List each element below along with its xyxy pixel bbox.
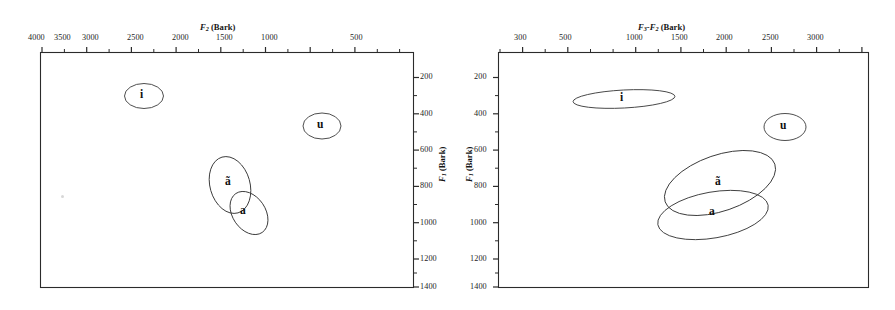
right-ytick-label-1000: 1000 [470,218,487,227]
right-xtick-label-300: 300 [514,33,527,42]
right-plot-canvas [448,0,895,310]
left-xtick-label-4000: 4000 [28,33,45,42]
right-yaxis-symbol: F [464,176,474,182]
right-ytick-label-1400: 1400 [470,282,487,291]
vowel-label-u-left: u [317,118,323,130]
left-yaxis-symbol: F [437,176,447,182]
left-ytick-label-600: 600 [420,145,433,154]
right-yaxis-ticks [493,78,499,288]
right-ytick-label-200: 200 [474,72,487,81]
left-yaxis-unit: (Bark) [437,147,447,171]
right-xtick-label-2500: 2500 [762,33,779,42]
left-xtick-label-1500: 1500 [216,33,233,42]
vowel-label-a-left: a [240,204,246,216]
ellipse-i [573,87,676,110]
right-xtick-label-2000: 2000 [716,33,733,42]
right-ytick-label-1200: 1200 [470,254,487,263]
left-ytick-label-1400: 1400 [420,282,437,291]
left-ytick-label-800: 800 [420,181,433,190]
vowel-label-u-right: u [780,119,786,131]
right-xtick-label-1500: 1500 [671,33,688,42]
left-xtick-label-2000: 2000 [172,33,189,42]
vowel-label-a-right: a [709,205,715,217]
left-xtick-label-1000: 1000 [261,33,278,42]
left-ytick-label-1200: 1200 [420,254,437,263]
left-xtick-label-3500: 3500 [54,33,71,42]
ellipse-i [125,84,164,109]
right-xtick-label-500: 500 [559,33,572,42]
left-plot-canvas [0,0,448,310]
chart-panel-right: F3-F2 (Bark) 300 500 1000 1500 2000 2500… [448,0,895,310]
right-vowel-ellipses [573,87,806,247]
right-xaxis-unit: (Bark) [661,22,685,32]
left-xaxis-ticks [42,47,400,53]
left-xaxis-unit: (Bark) [211,22,235,32]
left-xtick-label-500: 500 [350,33,363,42]
right-yaxis-title: F1 (Bark) [464,147,474,182]
left-plot-frame [41,53,414,288]
vowel-space-figure: F2 (Bark) 4000 3500 3000 2500 2000 1500 … [0,0,895,310]
vowel-label-a-nasal-right: ã [715,175,721,187]
right-xaxis-title: F3-F2 (Bark) [638,22,685,32]
left-yaxis-title: F1 (Bark) [437,147,447,182]
left-xtick-label-3000: 3000 [82,33,99,42]
vowel-label-i-right: i [620,91,623,103]
left-ytick-label-1000: 1000 [420,218,437,227]
right-xtick-label-1000: 1000 [626,33,643,42]
left-xaxis-symbol-sub: 2 [206,25,209,32]
chart-panel-left: F2 (Bark) 4000 3500 3000 2500 2000 1500 … [0,0,448,310]
vowel-label-a-nasal-left: ã [225,175,231,187]
scan-artifact-dot [61,195,64,198]
vowel-label-i-left: i [140,88,143,100]
right-xaxis-symbol-b-sub: 2 [655,25,658,32]
left-yaxis-symbol-sub: 1 [440,173,447,176]
right-ytick-label-400: 400 [474,109,487,118]
left-xaxis-title: F2 (Bark) [200,22,235,32]
right-ytick-label-600: 600 [474,145,487,154]
right-xtick-label-3000: 3000 [807,33,824,42]
left-ytick-label-400: 400 [420,109,433,118]
left-yaxis-ticks [414,78,420,288]
right-yaxis-symbol-sub: 1 [467,173,474,176]
left-ytick-label-200: 200 [420,72,433,81]
left-xtick-label-2500: 2500 [127,33,144,42]
left-vowel-ellipses [125,84,342,242]
right-xaxis-ticks [500,47,862,53]
right-ytick-label-800: 800 [474,181,487,190]
right-yaxis-unit: (Bark) [464,147,474,171]
